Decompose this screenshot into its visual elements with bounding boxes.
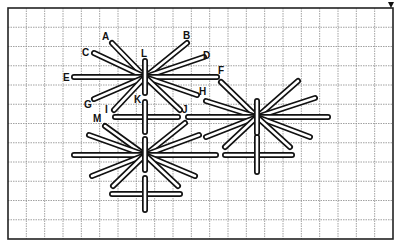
spoke-label-l: L xyxy=(141,48,147,59)
spoke-label-k: K xyxy=(134,94,142,105)
spoke-label-f: F xyxy=(218,65,224,76)
spoke-label-j: J xyxy=(182,104,188,115)
stitch-diagram: ABCDEFGHIJKLM xyxy=(0,0,401,248)
stitches xyxy=(74,43,328,210)
spoke-label-a: A xyxy=(102,31,109,42)
spoke-label-m: M xyxy=(93,113,101,124)
spoke-label-e: E xyxy=(63,72,70,83)
spoke-label-b: B xyxy=(183,30,190,41)
spoke-label-d: D xyxy=(203,50,210,61)
spoke-label-g: G xyxy=(84,99,92,110)
spoke-label-i: I xyxy=(105,104,108,115)
down-arrow-icon xyxy=(388,2,394,8)
spoke-label-c: C xyxy=(82,47,89,58)
spoke-label-h: H xyxy=(199,86,206,97)
grid xyxy=(8,8,393,239)
